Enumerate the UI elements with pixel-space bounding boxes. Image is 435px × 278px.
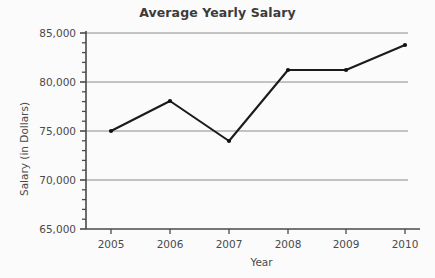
data-point bbox=[286, 68, 290, 72]
chart-figure: Average Yearly Salary bbox=[0, 0, 435, 278]
data-point bbox=[109, 129, 113, 133]
data-point-markers bbox=[109, 43, 407, 143]
y-tick-label-85000: 85,000 bbox=[18, 27, 76, 39]
x-tick-label-2007: 2007 bbox=[216, 238, 243, 250]
chart-plot-area bbox=[0, 0, 435, 278]
x-tick-label-2008: 2008 bbox=[275, 238, 302, 250]
x-axis-title: Year bbox=[44, 256, 435, 268]
data-point bbox=[403, 43, 407, 47]
data-point bbox=[227, 139, 231, 143]
y-tick-label-65000: 65,000 bbox=[18, 223, 76, 235]
data-point bbox=[344, 68, 348, 72]
x-tick-label-2009: 2009 bbox=[333, 238, 360, 250]
y-tick-label-80000: 80,000 bbox=[18, 76, 76, 88]
data-series-line bbox=[111, 45, 405, 141]
x-tick-label-2010: 2010 bbox=[392, 238, 419, 250]
x-tick-label-2005: 2005 bbox=[98, 238, 125, 250]
gridlines bbox=[86, 33, 408, 180]
y-axis-title: Salary (in Dollars) bbox=[18, 102, 30, 196]
data-point bbox=[168, 99, 172, 103]
x-tick-label-2006: 2006 bbox=[157, 238, 184, 250]
